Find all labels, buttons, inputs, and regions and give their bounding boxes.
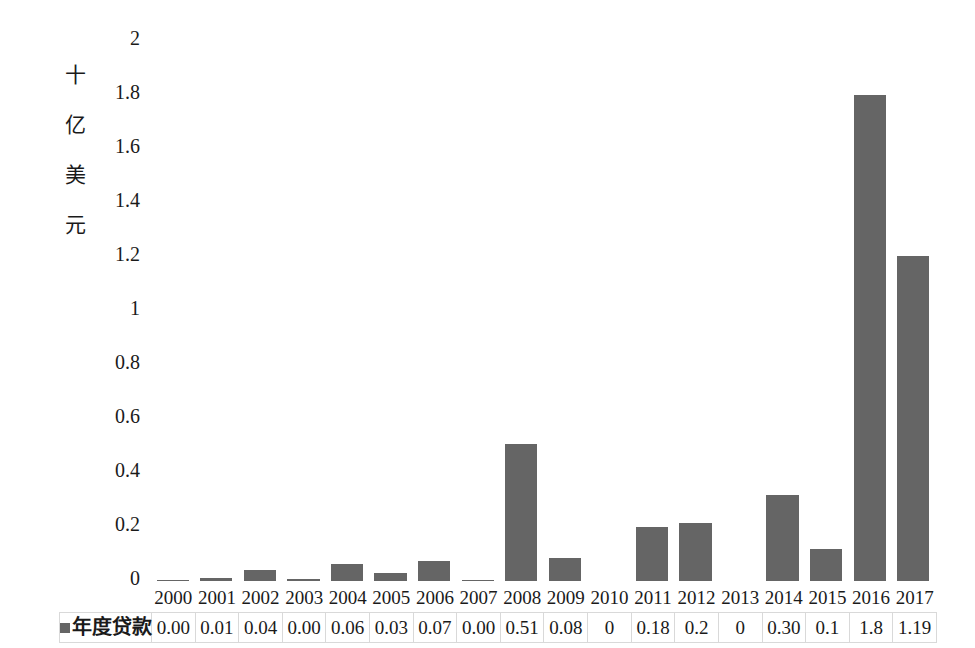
y-axis-tick-label: 1.4	[86, 190, 140, 210]
value-cell-2017: 1.19	[893, 613, 937, 643]
x-axis-label-2005: 2005	[370, 583, 414, 613]
bar-slot	[238, 44, 282, 581]
bar-slot	[891, 44, 935, 581]
value-cell-2015: 0.1	[806, 613, 850, 643]
value-cell-2009: 0.08	[544, 613, 588, 643]
y-axis-tick-label: 1.2	[86, 244, 140, 264]
legend-swatch-icon	[60, 623, 70, 633]
bar-2011[interactable]	[636, 527, 668, 581]
bar-slot	[412, 44, 456, 581]
bar-slot	[761, 44, 805, 581]
x-axis-label-2012: 2012	[675, 583, 719, 613]
bar-slot	[804, 44, 848, 581]
legend-entry: 年度贷款	[60, 613, 152, 643]
x-axis-label-2017: 2017	[893, 583, 937, 613]
bar-slot	[499, 44, 543, 581]
value-cell-2001: 0.01	[195, 613, 239, 643]
table-row-years: 2000200120022003200420052006200720082009…	[60, 583, 937, 613]
y-axis-tick-label: 2	[86, 28, 140, 48]
bar-2017[interactable]	[897, 256, 929, 581]
bar-chart: 十 亿 美 元 21.81.61.41.210.80.60.40.20 2000…	[0, 0, 975, 648]
bar-2004[interactable]	[331, 564, 363, 581]
y-axis-title-char-1: 十	[65, 63, 86, 87]
value-cell-2005: 0.03	[370, 613, 414, 643]
bar-slot	[543, 44, 587, 581]
bar-2016[interactable]	[854, 95, 886, 581]
value-cell-2006: 0.07	[413, 613, 457, 643]
x-axis-label-2000: 2000	[152, 583, 196, 613]
value-cell-2010: 0	[588, 613, 632, 643]
table-row-values: 年度贷款 0.000.010.040.000.060.030.070.000.5…	[60, 613, 937, 643]
bar-slot	[848, 44, 892, 581]
data-table: 2000200120022003200420052006200720082009…	[59, 583, 937, 643]
bar-2014[interactable]	[766, 495, 798, 581]
value-cell-2008: 0.51	[500, 613, 544, 643]
y-axis-tick-label: 0.4	[86, 460, 140, 480]
y-axis-tick-label: 1.6	[86, 136, 140, 156]
value-cell-2014: 0.30	[762, 613, 806, 643]
x-axis-label-2013: 2013	[718, 583, 762, 613]
bar-2009[interactable]	[549, 558, 581, 581]
y-axis-tick-label: 1.8	[86, 82, 140, 102]
bar-slot	[717, 44, 761, 581]
x-axis-label-2010: 2010	[588, 583, 632, 613]
bar-slot	[587, 44, 631, 581]
x-axis-label-2002: 2002	[239, 583, 283, 613]
value-cell-2007: 0.00	[457, 613, 501, 643]
y-axis-tick-label: 0.2	[86, 514, 140, 534]
bar-slot	[674, 44, 718, 581]
bar-slot	[369, 44, 413, 581]
bar-slot	[325, 44, 369, 581]
bar-2006[interactable]	[418, 561, 450, 581]
x-axis-label-2007: 2007	[457, 583, 501, 613]
x-axis-label-2001: 2001	[195, 583, 239, 613]
bar-2005[interactable]	[374, 573, 406, 581]
y-axis-tick-label: 1	[86, 298, 140, 318]
x-axis-label-2004: 2004	[326, 583, 370, 613]
value-cell-2002: 0.04	[239, 613, 283, 643]
x-axis-label-2006: 2006	[413, 583, 457, 613]
value-cell-2012: 0.2	[675, 613, 719, 643]
bar-2008[interactable]	[505, 444, 537, 581]
bar-slot	[630, 44, 674, 581]
bar-slot	[282, 44, 326, 581]
bar-2007[interactable]	[462, 580, 494, 581]
bar-2001[interactable]	[200, 578, 232, 581]
bar-2000[interactable]	[157, 580, 189, 581]
x-axis-label-2008: 2008	[500, 583, 544, 613]
value-cell-2003: 0.00	[282, 613, 326, 643]
table-corner-cell	[60, 583, 152, 613]
value-cell-2004: 0.06	[326, 613, 370, 643]
plot-area	[151, 44, 935, 581]
bar-2012[interactable]	[679, 523, 711, 581]
bar-2002[interactable]	[244, 570, 276, 581]
value-cell-2000: 0.00	[152, 613, 196, 643]
value-cell-2016: 1.8	[849, 613, 893, 643]
y-axis-title: 十 亿 美 元	[44, 38, 78, 263]
x-axis-label-2014: 2014	[762, 583, 806, 613]
bar-slot	[195, 44, 239, 581]
y-axis-tick-label: 0.8	[86, 352, 140, 372]
x-axis-label-2009: 2009	[544, 583, 588, 613]
value-cell-2013: 0	[718, 613, 762, 643]
y-axis-ticks: 21.81.61.41.210.80.60.40.20	[86, 34, 140, 582]
y-axis-title-char-3: 美	[65, 163, 86, 187]
legend-label: 年度贷款	[72, 616, 152, 638]
x-axis-label-2016: 2016	[849, 583, 893, 613]
bar-2003[interactable]	[287, 579, 319, 581]
x-axis-label-2011: 2011	[631, 583, 675, 613]
y-axis-tick-label: 0.6	[86, 406, 140, 426]
value-cell-2011: 0.18	[631, 613, 675, 643]
bar-slot	[456, 44, 500, 581]
bar-slot	[151, 44, 195, 581]
x-axis-label-2015: 2015	[806, 583, 850, 613]
x-axis-label-2003: 2003	[282, 583, 326, 613]
y-axis-title-char-2: 亿	[65, 113, 86, 137]
bar-2015[interactable]	[810, 549, 842, 581]
y-axis-title-char-4: 元	[65, 213, 86, 237]
